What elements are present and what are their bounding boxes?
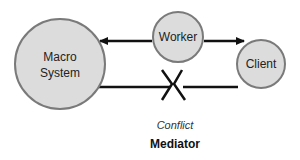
conflict-break-icon [174, 70, 185, 100]
node-worker: Worker [153, 12, 203, 62]
macro-label-line2: System [40, 66, 80, 80]
worker-label: Worker [159, 30, 197, 44]
client-label: Client [246, 57, 277, 71]
mediator-label: Mediator [150, 137, 200, 151]
diagram-canvas: Macro System Worker Client Conflict Medi… [0, 0, 300, 160]
macro-label-line1: Macro [43, 50, 77, 64]
node-macro-system: Macro System [15, 19, 105, 109]
conflict-label: Conflict [157, 119, 195, 131]
node-client: Client [237, 40, 285, 88]
conflict-break-icon [162, 70, 172, 100]
